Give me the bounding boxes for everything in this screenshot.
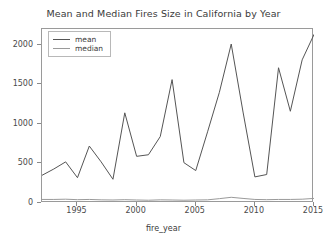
y-tick-mark (37, 202, 41, 203)
y-tick-label: 1000 (0, 118, 33, 127)
chart-title: Mean and Median Fires Size in California… (0, 8, 327, 19)
x-axis-label: fire_year (0, 224, 327, 233)
chart-figure: Mean and Median Fires Size in California… (0, 0, 327, 248)
x-tick-label: 2000 (125, 206, 145, 215)
y-tick-label: 500 (0, 158, 33, 167)
series-line-median (42, 197, 314, 200)
legend-swatch-mean (53, 39, 70, 40)
x-tick-label: 2005 (185, 206, 205, 215)
legend-swatch-median (53, 48, 70, 49)
legend-label-median: median (75, 44, 103, 53)
x-tick-label: 1995 (66, 206, 86, 215)
chart-legend: mean median (48, 31, 111, 57)
x-tick-label: 2010 (244, 206, 264, 215)
y-tick-label: 0 (0, 198, 33, 207)
x-tick-label: 2015 (303, 206, 323, 215)
legend-label-mean: mean (75, 35, 96, 44)
y-tick-label: 1500 (0, 79, 33, 88)
y-tick-label: 2000 (0, 39, 33, 48)
legend-item-median: median (53, 44, 103, 53)
legend-item-mean: mean (53, 35, 103, 44)
